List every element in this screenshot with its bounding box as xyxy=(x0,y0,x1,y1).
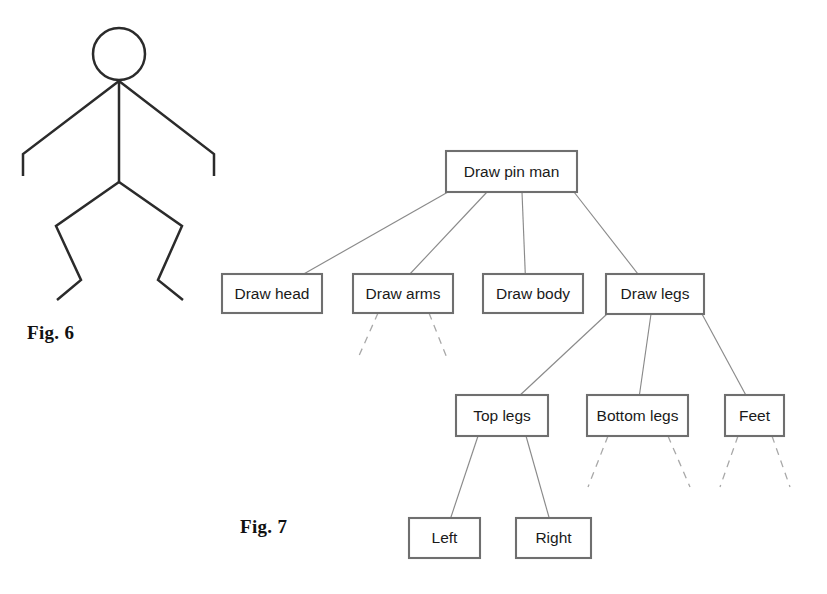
node-bottom-legs-label: Bottom legs xyxy=(597,407,679,424)
node-feet[interactable]: Feet xyxy=(725,395,784,436)
pin-man-left-arm-icon xyxy=(23,81,119,176)
node-top-legs-label: Top legs xyxy=(473,407,531,424)
node-right-label: Right xyxy=(535,529,572,546)
edge-stub-feet-right xyxy=(772,436,790,487)
node-left-label: Left xyxy=(432,529,459,546)
node-top-legs[interactable]: Top legs xyxy=(456,395,548,436)
node-draw-arms-label: Draw arms xyxy=(366,285,441,302)
pin-man-right-arm-icon xyxy=(119,81,214,176)
pin-man-figure xyxy=(23,28,214,300)
pin-man-right-leg-icon xyxy=(119,182,183,300)
edge-stub-feet-left xyxy=(720,436,738,487)
node-draw-head-label: Draw head xyxy=(235,285,310,302)
node-draw-legs[interactable]: Draw legs xyxy=(606,274,704,314)
node-right[interactable]: Right xyxy=(516,518,591,558)
node-draw-pin-man[interactable]: Draw pin man xyxy=(446,151,577,192)
figure-6-caption: Fig. 6 xyxy=(27,322,74,344)
node-feet-label: Feet xyxy=(739,407,771,424)
figure-page: Draw pin man Draw head Draw arms Draw bo… xyxy=(0,0,827,594)
node-draw-arms[interactable]: Draw arms xyxy=(353,274,453,313)
tree-connectors xyxy=(272,192,790,535)
node-left[interactable]: Left xyxy=(409,518,480,558)
edge-stub-arms-left xyxy=(358,313,378,358)
node-draw-head[interactable]: Draw head xyxy=(222,274,322,313)
tree-nodes: Draw pin man Draw head Draw arms Draw bo… xyxy=(222,151,784,558)
figure-7-caption: Fig. 7 xyxy=(240,516,287,538)
edge-stub-bottom-legs-left xyxy=(588,436,608,487)
node-draw-body[interactable]: Draw body xyxy=(483,274,583,313)
pin-man-head-icon xyxy=(93,28,145,80)
node-draw-body-label: Draw body xyxy=(496,285,570,302)
edge-stub-bottom-legs-right xyxy=(668,436,690,487)
node-draw-legs-label: Draw legs xyxy=(621,285,690,302)
edge-stub-arms-right xyxy=(429,313,447,358)
node-bottom-legs[interactable]: Bottom legs xyxy=(587,395,688,436)
node-draw-pin-man-label: Draw pin man xyxy=(464,163,560,180)
pin-man-left-leg-icon xyxy=(56,182,119,300)
figures-canvas: Draw pin man Draw head Draw arms Draw bo… xyxy=(0,0,827,594)
